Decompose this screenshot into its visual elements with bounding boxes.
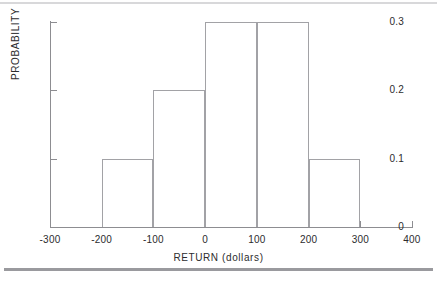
x-tick-label: 0 (202, 234, 208, 245)
x-tick-label: 100 (248, 234, 265, 245)
plot-area: 00.10.20.3 -300-200-1000100200300400 (50, 22, 412, 227)
x-tick-label: -300 (40, 234, 61, 245)
x-tick-label: -100 (143, 234, 164, 245)
y-axis-line (50, 21, 51, 227)
histogram-bar (309, 159, 361, 227)
histogram-figure: 00.10.20.3 -300-200-1000100200300400 PRO… (0, 0, 437, 284)
histogram-bar (205, 22, 257, 227)
y-tick-label: 0.1 (389, 153, 404, 164)
histogram-bar (102, 159, 154, 227)
y-axis-title: PROBABILITY (10, 8, 21, 80)
histogram-bar (257, 22, 309, 227)
histogram-bar (153, 90, 205, 227)
x-tick-label: 400 (403, 234, 420, 245)
x-tick (50, 221, 51, 227)
y-tick-label: 0 (398, 221, 404, 232)
y-tick-label: 0.3 (389, 16, 404, 27)
y-tick-label: 0.2 (389, 84, 404, 95)
y-tick (51, 90, 57, 91)
y-tick (51, 22, 57, 23)
x-tick (412, 221, 413, 227)
x-tick-label: 300 (352, 234, 369, 245)
top-divider-rule (0, 2, 437, 4)
x-axis-line (50, 227, 413, 228)
y-tick (51, 227, 57, 228)
x-tick (360, 221, 361, 227)
x-tick-label: 200 (300, 234, 317, 245)
bottom-divider-rule (4, 268, 433, 271)
y-tick (51, 159, 57, 160)
x-axis-title: RETURN (dollars) (0, 252, 437, 263)
x-tick-label: -200 (91, 234, 112, 245)
